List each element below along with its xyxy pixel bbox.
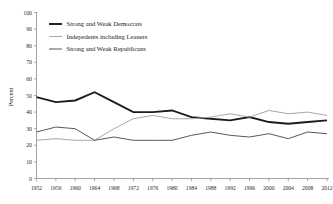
x-tick-label: 1984 [186, 185, 197, 191]
x-tick-label: 1988 [205, 185, 216, 191]
y-tick-label: 80 [26, 43, 32, 49]
x-tick-label: 1964 [89, 185, 100, 191]
legend-label: Indepedents including Leaners [67, 33, 148, 40]
chart-background [0, 0, 333, 204]
svg-text:Percent: Percent [7, 87, 14, 106]
y-tick-label: 40 [26, 109, 32, 115]
y-tick-label: 60 [26, 76, 32, 82]
y-tick-label: 90 [26, 26, 32, 32]
y-axis-title: Percent [7, 87, 14, 106]
x-tick-label: 2008 [302, 185, 313, 191]
x-tick-label: 2000 [263, 185, 274, 191]
chart-canvas: Percent 0102030405060708090100 195219561… [0, 0, 333, 204]
y-tick-label: 0 [29, 176, 32, 182]
x-tick-label: 2004 [283, 185, 294, 191]
x-tick-label: 1976 [147, 185, 158, 191]
x-tick-label: 1980 [166, 185, 177, 191]
x-tick-label: 1956 [50, 185, 61, 191]
x-tick-label: 1960 [70, 185, 81, 191]
legend-label: Strong and Weak Republicans [67, 45, 147, 52]
x-tick-label: 1992 [225, 185, 236, 191]
y-tick-label: 100 [23, 10, 32, 16]
y-tick-label: 20 [26, 142, 32, 148]
x-tick-label: 1996 [244, 185, 255, 191]
y-tick-label: 70 [26, 59, 32, 65]
y-tick-label: 50 [26, 93, 32, 99]
y-tick-label: 10 [26, 159, 32, 165]
x-tick-label: 1968 [108, 185, 119, 191]
x-tick-label: 2012 [321, 185, 332, 191]
x-tick-label: 1952 [31, 185, 42, 191]
line-chart-figure: Percent 0102030405060708090100 195219561… [0, 0, 333, 204]
legend-label: Strong and Weak Democrats [67, 20, 143, 27]
x-tick-label: 1972 [128, 185, 139, 191]
y-tick-label: 30 [26, 126, 32, 132]
